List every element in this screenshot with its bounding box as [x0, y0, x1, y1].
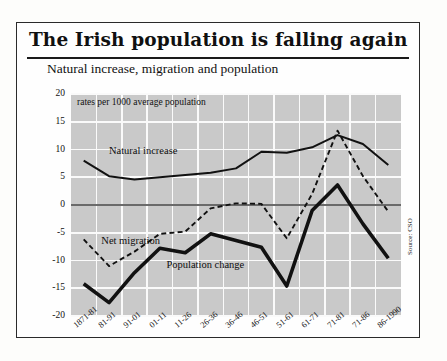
- series-natural-increase: [84, 135, 389, 179]
- chart-frame: The Irish population is falling again Na…: [16, 22, 420, 338]
- chart-lines: [17, 23, 421, 339]
- y-axis-tick-label: 20: [39, 88, 65, 98]
- y-axis-tick-label: 5: [39, 171, 65, 181]
- label-net-migration: Net migration: [101, 235, 160, 246]
- y-axis-tick-label: 10: [39, 144, 65, 154]
- label-population-change: Population change: [166, 259, 244, 270]
- y-axis-tick-label: -20: [39, 310, 65, 320]
- source-note: Source: CSO: [406, 218, 414, 255]
- plot-area: rates per 1000 average population Natura…: [17, 23, 421, 339]
- y-axis-tick-label: 0: [39, 199, 65, 209]
- y-axis-tick-label: -5: [39, 227, 65, 237]
- y-axis-tick-label: -15: [39, 282, 65, 292]
- y-axis-tick-label: 15: [39, 116, 65, 126]
- label-natural-increase: Natural increase: [109, 145, 178, 156]
- y-axis-tick-label: -10: [39, 255, 65, 265]
